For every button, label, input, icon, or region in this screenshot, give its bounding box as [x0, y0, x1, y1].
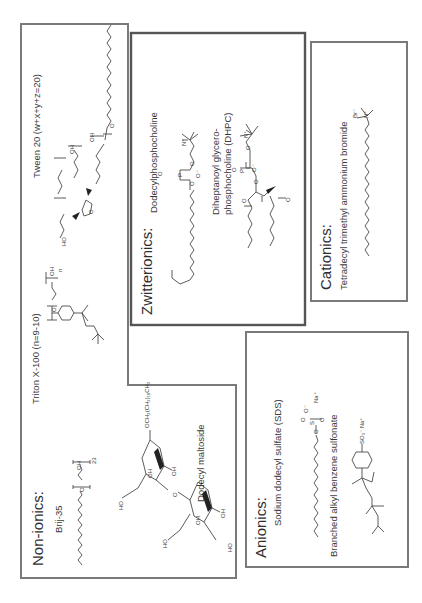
svg-text:n: n [57, 269, 63, 272]
dodecylphosphocholine-structure: O P O O⁻ O N⁺ [157, 132, 201, 284]
brij35-label: Brij-35 [53, 506, 64, 533]
triton-x100-structure: O OH n [46, 267, 104, 344]
svg-text:HO: HO [118, 501, 124, 510]
svg-text:O: O [189, 181, 195, 186]
svg-text:OH: OH [147, 469, 153, 478]
svg-text:O: O [189, 161, 195, 166]
svg-text:HO: HO [61, 237, 67, 246]
ttab-structure: N⁺ Br⁻ [352, 108, 373, 256]
brij35-structure: O OH 23 [73, 457, 97, 565]
svg-text:OH: OH [69, 145, 75, 154]
tween20-label: Tween 20 (w+x+y+z=20) [31, 74, 42, 178]
svg-text:Br⁻: Br⁻ [352, 109, 358, 118]
zwitterionics-title: Zwitterionics: [138, 227, 155, 315]
abs-label: Branched alkyl benzene sulfonate [328, 414, 339, 557]
ttab-label: Tetradecyl trimethyl ammonium bromide [338, 122, 349, 290]
svg-text:N⁺: N⁺ [363, 111, 369, 118]
svg-text:O: O [109, 123, 115, 128]
svg-text:O: O [253, 179, 259, 184]
svg-text:O: O [245, 145, 251, 150]
svg-text:OH: OH [220, 509, 226, 518]
svg-text:HO: HO [162, 539, 168, 548]
svg-text:N⁺: N⁺ [243, 131, 249, 138]
svg-text:HO: HO [227, 543, 233, 552]
svg-text:23: 23 [91, 457, 97, 464]
abs-structure: SO₃⁻ Na⁺ [352, 418, 384, 534]
nonionics-title: Non-ionics: [29, 491, 46, 566]
svg-text:O: O [313, 429, 319, 434]
svg-text:O: O [285, 197, 291, 202]
svg-text:O: O [51, 307, 57, 312]
sds-structure: O S O O O⁻ Na⁺ [300, 392, 325, 537]
tween20-structure: OH OH HO O O [54, 25, 115, 246]
sds-label: Sodium dodecyl sulfate (SDS) [272, 399, 283, 526]
svg-text:P: P [177, 173, 183, 177]
svg-text:OH: OH [171, 467, 177, 476]
svg-text:N⁺: N⁺ [181, 139, 187, 146]
svg-text:OH: OH [76, 461, 82, 470]
svg-text:O: O [231, 167, 237, 172]
anionics-title: Anionics: [252, 497, 269, 558]
svg-text:O⁻: O⁻ [303, 405, 309, 413]
svg-text:O: O [88, 209, 94, 214]
dodecyl-maltoside-label: Dodecyl maltoside [195, 424, 206, 502]
svg-text:SO₃⁻ Na⁺: SO₃⁻ Na⁺ [359, 418, 365, 444]
dhpc-label-line1: Diheptanoyl glycero- [210, 128, 221, 215]
svg-text:OCH₂(CH₂)₁₀CH₃: OCH₂(CH₂)₁₀CH₃ [144, 381, 150, 428]
svg-text:O: O [241, 198, 247, 203]
svg-text:OH: OH [195, 516, 201, 525]
svg-text:O: O [79, 487, 85, 492]
cationics-title: Cationics: [317, 224, 334, 290]
svg-text:S: S [309, 421, 315, 425]
dodecylphosphocholine-label: Dodecylphosphocholine [148, 112, 159, 213]
svg-text:O: O [300, 417, 306, 422]
svg-text:P: P [239, 169, 245, 173]
svg-text:OH: OH [49, 267, 55, 276]
svg-text:O: O [157, 171, 163, 176]
dodecyl-maltoside-structure: OCH₂(CH₂)₁₀CH₃ OH OH HO O OH OH HO HO [118, 381, 233, 552]
svg-text:O: O [172, 492, 178, 497]
surfactant-diagram: Non-ionics: Brij-35 O OH 23 Triton X-100… [0, 0, 422, 603]
dhpc-label-line2: phosphocholine (DHPC) [222, 113, 233, 215]
svg-text:O⁻: O⁻ [251, 164, 257, 172]
svg-text:Na⁺: Na⁺ [313, 392, 319, 403]
svg-text:OH: OH [89, 133, 95, 142]
triton-x100-label: Triton X-100 (n=9-10) [30, 313, 41, 404]
svg-text:O⁻: O⁻ [195, 170, 201, 178]
svg-text:O: O [319, 417, 325, 422]
dhpc-structure: O O P O O⁻ O N⁺ O [231, 124, 291, 248]
